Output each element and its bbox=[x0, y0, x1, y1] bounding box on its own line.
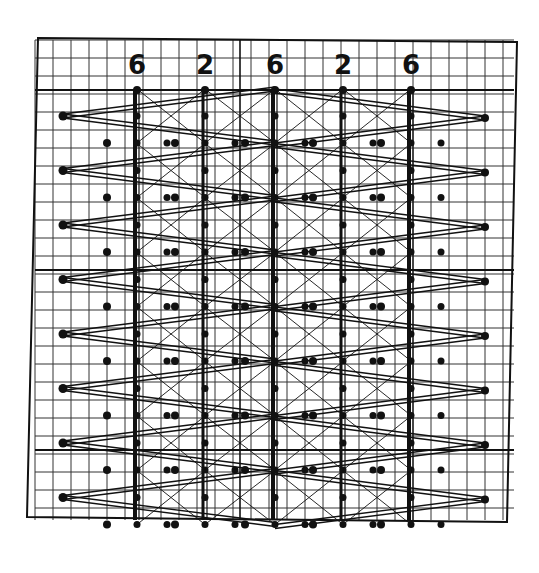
lace-pricking-diagram bbox=[0, 0, 539, 573]
column-label: 6 bbox=[402, 52, 420, 78]
column-label: 2 bbox=[334, 52, 352, 78]
column-label: 2 bbox=[196, 52, 214, 78]
lace-pattern bbox=[59, 86, 490, 529]
column-label: 6 bbox=[266, 52, 284, 78]
column-label: 6 bbox=[128, 52, 146, 78]
